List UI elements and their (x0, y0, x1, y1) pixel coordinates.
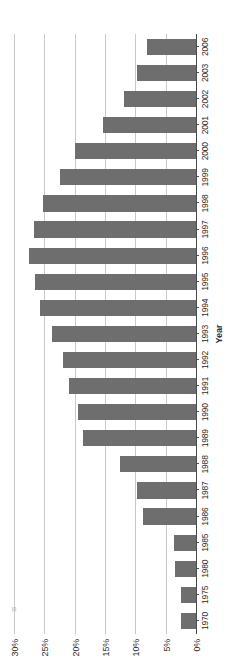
x-tick-mark (196, 359, 199, 360)
bar-slot: 1985 (14, 530, 196, 556)
x-tick-mark (196, 46, 199, 47)
bar-slot: 1997 (14, 217, 196, 243)
bar-slot: 2001 (14, 112, 196, 138)
bar-slot: 1998 (14, 190, 196, 216)
x-tick-label-1985: 1985 (200, 534, 210, 552)
x-tick-label-1997: 1997 (200, 220, 210, 238)
bar-slot: 1989 (14, 425, 196, 451)
x-tick-mark (196, 463, 199, 464)
x-tick-mark (196, 307, 199, 308)
x-tick-label-1994: 1994 (200, 299, 210, 317)
bar-slot: 1991 (14, 373, 196, 399)
x-tick-mark (196, 255, 199, 256)
x-tick-mark (196, 229, 199, 230)
bar-1998 (43, 195, 196, 211)
x-tick-mark (196, 124, 199, 125)
x-tick-label-2006: 2006 (200, 38, 210, 56)
x-tick-label-1996: 1996 (200, 247, 210, 265)
x-tick-mark (196, 620, 199, 621)
bar-1993 (52, 326, 196, 342)
bar-slot: 1994 (14, 295, 196, 321)
x-tick-mark (196, 98, 199, 99)
bar-slot: 2002 (14, 86, 196, 112)
bar-1999 (60, 169, 196, 185)
bar-slot: 1986 (14, 504, 196, 530)
bar-1988 (120, 456, 196, 472)
x-tick-mark (196, 202, 199, 203)
bar-2003 (137, 65, 196, 81)
x-tick-label-2002: 2002 (200, 90, 210, 108)
bar-2006 (147, 39, 196, 55)
x-tick-mark (196, 437, 199, 438)
x-tick-label-2001: 2001 (200, 116, 210, 134)
x-tick-mark (196, 489, 199, 490)
x-tick-label-1998: 1998 (200, 194, 210, 212)
x-axis-title: Year (214, 34, 224, 634)
x-tick-label-2003: 2003 (200, 64, 210, 82)
bar-slot: 1995 (14, 269, 196, 295)
y-tick-label: 0% (192, 639, 202, 652)
x-tick-label-1995: 1995 (200, 273, 210, 291)
x-tick-label-1988: 1988 (200, 455, 210, 473)
bar-2000 (75, 143, 196, 159)
x-tick-mark (196, 516, 199, 517)
x-tick-mark (196, 281, 199, 282)
bar-slot: 1980 (14, 556, 196, 582)
bar-slot: 1996 (14, 243, 196, 269)
bar-1975 (181, 587, 196, 603)
x-tick-mark (196, 594, 199, 595)
x-tick-mark (196, 385, 199, 386)
x-tick-label-1992: 1992 (200, 351, 210, 369)
y-tick-label: 20% (71, 639, 81, 656)
x-tick-label-1989: 1989 (200, 429, 210, 447)
x-tick-mark (196, 333, 199, 334)
bar-slot: 1990 (14, 399, 196, 425)
bar-slot: 2003 (14, 60, 196, 86)
x-tick-label-1975: 1975 (200, 586, 210, 604)
bar-slot: 1988 (14, 451, 196, 477)
x-tick-mark (196, 568, 199, 569)
plot-area: 0%5%10%15%20%25%30% 19701975198019851986… (14, 34, 196, 634)
bar-1987 (137, 482, 196, 498)
bar-1970 (181, 613, 196, 629)
bar-1997 (34, 221, 196, 237)
x-tick-label-1987: 1987 (200, 481, 210, 499)
bar-1994 (40, 300, 196, 316)
bar-1989 (83, 430, 196, 446)
bar-slot: 1987 (14, 477, 196, 503)
x-tick-label-1970: 1970 (200, 612, 210, 630)
x-tick-mark (196, 542, 199, 543)
x-tick-label-1980: 1980 (200, 560, 210, 578)
bar-slot: 1970 (14, 608, 196, 634)
bar-slot: 2006 (14, 34, 196, 60)
bar-1992 (63, 352, 196, 368)
x-tick-label-1986: 1986 (200, 508, 210, 526)
x-tick-mark (196, 411, 199, 412)
y-tick-label: 25% (40, 639, 50, 656)
bar-1980 (175, 561, 196, 577)
bar-1996 (29, 248, 196, 264)
x-tick-label-1990: 1990 (200, 403, 210, 421)
bar-slot: 1975 (14, 582, 196, 608)
bar-slot: 2000 (14, 138, 196, 164)
x-tick-label-1991: 1991 (200, 377, 210, 395)
bar-1990 (78, 404, 196, 420)
x-tick-label-1993: 1993 (200, 325, 210, 343)
scan-artifact: ≡ (9, 606, 19, 612)
x-tick-label-1999: 1999 (200, 168, 210, 186)
bar-1995 (35, 274, 196, 290)
x-tick-mark (196, 176, 199, 177)
x-tick-label-2000: 2000 (200, 142, 210, 160)
x-tick-mark (196, 72, 199, 73)
y-tick-label: 30% (10, 639, 20, 656)
y-tick-label: 10% (131, 639, 141, 656)
y-tick-label: 15% (101, 639, 111, 656)
x-tick-mark (196, 150, 199, 151)
bar-1985 (174, 535, 196, 551)
bar-slot: 1992 (14, 347, 196, 373)
bar-1986 (143, 509, 196, 525)
bar-1991 (69, 378, 196, 394)
y-tick-label: 5% (162, 639, 172, 652)
